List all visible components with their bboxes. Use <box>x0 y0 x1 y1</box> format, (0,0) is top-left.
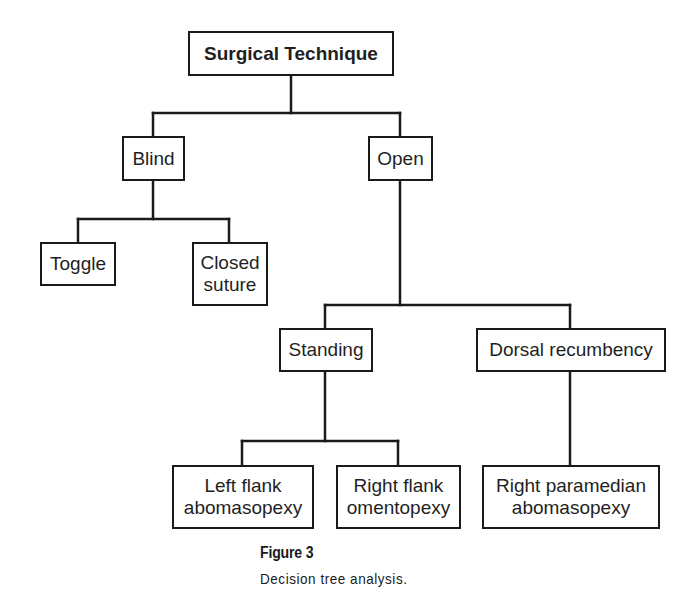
node-closed-suture: Closed suture <box>192 242 268 306</box>
node-label: Right paramedian abomasopexy <box>496 475 646 519</box>
node-right-paramedian-abomasopexy: Right paramedian abomasopexy <box>482 465 660 529</box>
node-right-flank-omentopexy: Right flank omentopexy <box>336 465 461 529</box>
node-dorsal-recumbency: Dorsal recumbency <box>476 328 666 372</box>
figure-caption: Decision tree analysis. <box>260 570 407 587</box>
node-label: Closed suture <box>200 252 259 296</box>
node-toggle: Toggle <box>40 242 116 286</box>
node-label: Dorsal recumbency <box>489 339 653 361</box>
node-label: Standing <box>288 339 363 361</box>
node-label: Right flank omentopexy <box>347 475 451 519</box>
decision-tree-diagram: Surgical Technique Blind Open Toggle Clo… <box>0 0 699 606</box>
node-left-flank-abomasopexy: Left flank abomasopexy <box>172 465 314 529</box>
node-label: Surgical Technique <box>204 43 378 65</box>
node-standing: Standing <box>279 328 373 372</box>
node-label: Blind <box>132 148 174 170</box>
node-label: Open <box>377 148 423 170</box>
node-label: Toggle <box>50 253 106 275</box>
node-label: Left flank abomasopexy <box>184 475 302 519</box>
figure-label: Figure 3 <box>260 544 313 562</box>
node-surgical-technique: Surgical Technique <box>188 31 394 76</box>
node-open: Open <box>368 136 433 181</box>
node-blind: Blind <box>122 136 185 181</box>
